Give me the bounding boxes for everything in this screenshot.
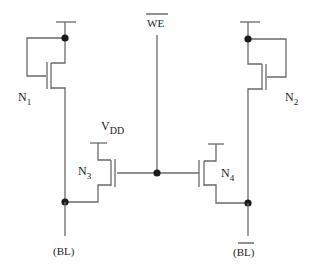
wire <box>51 88 65 202</box>
node-dot <box>61 34 68 41</box>
wire <box>204 185 248 203</box>
wire <box>248 89 262 203</box>
label-we: WE <box>147 17 164 29</box>
wire <box>248 39 262 64</box>
label-n4: N4 <box>221 166 235 183</box>
label-bl-bar: (BL) <box>233 246 255 259</box>
wire <box>51 38 65 63</box>
label-n1: N1 <box>18 90 31 107</box>
gate-loop-n1 <box>27 38 65 76</box>
label-vdd: VDD <box>101 119 124 136</box>
label-n2: N2 <box>285 90 298 107</box>
circuit-diagram: N1 N2 N3 N4 VDD WE (BL) (BL) <box>0 0 316 272</box>
wire <box>65 185 111 202</box>
transistor-n4 <box>199 144 252 236</box>
wire <box>98 143 111 160</box>
node-dot <box>153 169 160 176</box>
label-n3: N3 <box>78 164 92 181</box>
transistor-n3 <box>61 143 115 236</box>
we-bar-net <box>117 35 199 177</box>
gate-loop-n2 <box>248 39 286 77</box>
node-dot <box>244 35 251 42</box>
label-bl: (BL) <box>53 245 75 258</box>
transistor-n2 <box>240 22 286 203</box>
transistor-n1 <box>27 22 76 202</box>
wire <box>204 144 216 161</box>
